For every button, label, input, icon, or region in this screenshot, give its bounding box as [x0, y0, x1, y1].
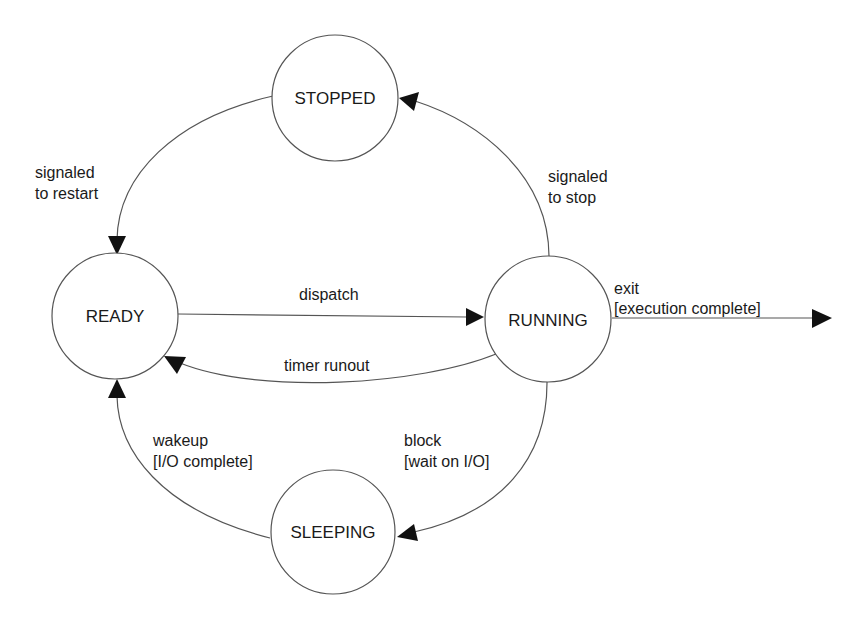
arrowhead-stop-icon	[399, 92, 419, 111]
arrowhead-exit-icon	[812, 309, 832, 328]
edge-stop	[415, 101, 549, 257]
label-wakeup-line2: [I/O complete]	[153, 453, 253, 470]
arrowhead-timer-icon	[164, 356, 186, 374]
state-running: RUNNING	[485, 256, 611, 382]
label-restart-line2: to restart	[35, 185, 99, 202]
label-dispatch: dispatch	[299, 286, 359, 303]
state-label-stopped: STOPPED	[295, 89, 376, 108]
label-wakeup-line1: wakeup	[152, 432, 208, 449]
state-label-ready: READY	[86, 307, 145, 326]
label-stop-line2: to stop	[548, 189, 596, 206]
label-restart-line1: signaled	[35, 164, 95, 181]
arrowhead-wakeup-icon	[108, 379, 126, 398]
state-label-running: RUNNING	[508, 311, 587, 330]
label-block-line2: [wait on I/O]	[404, 453, 489, 470]
label-block-line1: block	[404, 432, 442, 449]
label-stop-line1: signaled	[548, 168, 608, 185]
arrowhead-restart-icon	[108, 236, 126, 255]
arrowhead-dispatch-icon	[466, 308, 484, 326]
edge-restart	[117, 96, 273, 240]
label-timer: timer runout	[284, 357, 370, 374]
arrowhead-block-icon	[397, 524, 418, 541]
label-exit-line2: [execution complete]	[614, 300, 761, 317]
state-diagram: STOPPED READY RUNNING SLEEPING signaled …	[0, 0, 863, 622]
state-stopped: STOPPED	[272, 35, 398, 161]
edge-dispatch	[178, 314, 467, 317]
label-exit-line1: exit	[614, 280, 639, 297]
state-sleeping: SLEEPING	[271, 470, 395, 594]
state-label-sleeping: SLEEPING	[290, 523, 375, 542]
state-ready: READY	[52, 253, 178, 379]
